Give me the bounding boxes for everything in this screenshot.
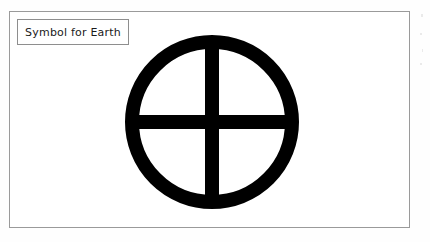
figure-frame: Symbol for Earth: [9, 11, 410, 228]
earth-symbol-horizontal-bar: [132, 115, 292, 129]
scan-artifact: [421, 14, 423, 17]
scan-artifact: [420, 63, 422, 65]
caption-box: Symbol for Earth: [17, 19, 129, 45]
scan-artifact: [420, 33, 422, 35]
scan-page: Symbol for Earth: [0, 0, 430, 242]
scan-artifact: [422, 49, 423, 52]
figure-caption-label: Symbol for Earth: [25, 27, 121, 38]
earth-symbol: [125, 35, 299, 209]
